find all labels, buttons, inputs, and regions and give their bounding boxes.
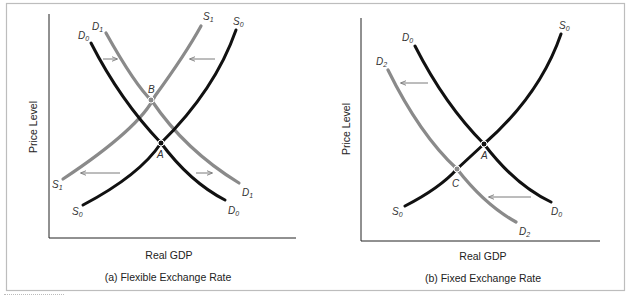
panel-b-caption: (b) Fixed Exchange Rate xyxy=(425,272,541,284)
panel-a-s0-curve xyxy=(83,30,236,205)
panel-a-point-b xyxy=(148,97,154,103)
figure-canvas: B A D1 D0 S1 S0 S1 S0 D1 D0 Price Level … xyxy=(0,0,633,302)
panel-b-x-axis-title: Real GDP xyxy=(459,250,506,262)
panel-b-y-axis-title: Price Level xyxy=(340,103,352,155)
figure-number-residue xyxy=(4,294,64,299)
panel-a-y-axis-title: Price Level xyxy=(27,101,39,153)
panel-a-label-d1-top: D1 xyxy=(92,21,103,33)
panel-a-label-s1-top: S1 xyxy=(203,11,214,23)
panel-a-label-s1-bottom: S1 xyxy=(52,179,63,191)
panel-a-s1-curve xyxy=(63,26,201,179)
panel-b: A C D0 D2 S0 S0 D0 D2 Price Level Real G… xyxy=(340,18,600,284)
panel-a-label-d0-top: D0 xyxy=(78,30,89,42)
panel-a: B A D1 D0 S1 S0 S1 S0 D1 D0 Price Level … xyxy=(27,11,296,283)
panel-b-label-d2-top: D2 xyxy=(376,56,387,68)
panel-a-label-a: A xyxy=(156,149,164,160)
panel-a-d1-curve xyxy=(106,33,239,183)
panel-b-label-s0-bottom: S0 xyxy=(392,206,403,218)
panel-b-label-s0-top: S0 xyxy=(559,20,570,32)
panel-a-point-a xyxy=(158,140,164,146)
panel-b-label-d0-bottom: D0 xyxy=(551,206,562,218)
panel-a-caption: (a) Flexible Exchange Rate xyxy=(105,271,232,283)
panel-b-point-a xyxy=(481,141,487,147)
panel-a-x-axis-title: Real GDP xyxy=(145,249,192,261)
panel-a-label-d1-bottom: D1 xyxy=(242,187,253,199)
panel-a-label-b: B xyxy=(148,84,155,95)
panel-b-d2-curve xyxy=(388,70,516,222)
panel-b-s0-curve xyxy=(405,34,561,206)
panel-a-label-s0-top: S0 xyxy=(233,16,244,28)
panel-a-label-s0-bottom: S0 xyxy=(72,206,83,218)
panel-a-label-d0-bottom: D0 xyxy=(228,205,239,217)
panel-b-point-c xyxy=(454,166,460,172)
panel-b-label-d0-top: D0 xyxy=(402,32,413,44)
panel-b-label-c: C xyxy=(452,178,460,189)
panel-b-d0-curve xyxy=(415,46,551,202)
panel-b-label-a: A xyxy=(480,150,488,161)
figure-frame xyxy=(7,4,625,291)
panel-b-label-d2-bottom: D2 xyxy=(519,226,530,238)
panel-a-d0-curve xyxy=(91,43,225,200)
